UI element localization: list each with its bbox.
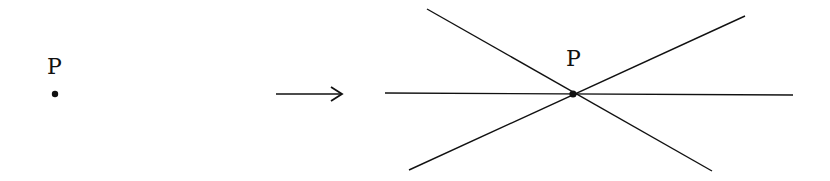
- horizontal-line: [385, 93, 793, 95]
- left-point-group: P: [47, 54, 62, 97]
- lines-through-point: [385, 9, 793, 171]
- pencil-of-lines-diagram: P P: [0, 0, 830, 181]
- left-point-label: P: [47, 54, 62, 79]
- maps-to-arrow-icon: [276, 87, 342, 101]
- right-point-label: P: [566, 46, 581, 71]
- descending-line: [427, 9, 712, 171]
- left-point-dot: [52, 91, 58, 97]
- right-point-dot: [569, 90, 576, 97]
